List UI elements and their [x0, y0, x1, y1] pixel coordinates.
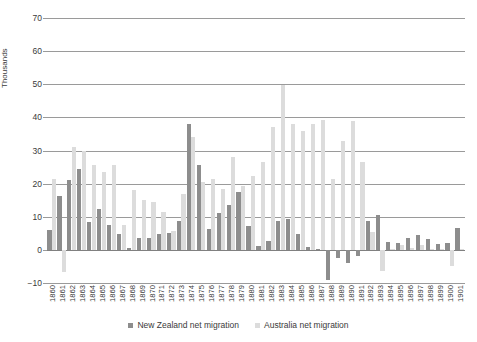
bar [336, 250, 340, 258]
bar-group [147, 18, 157, 283]
bar-group [266, 18, 276, 283]
x-tick-label: 1881 [257, 285, 266, 321]
x-tick-label: 1899 [436, 285, 445, 321]
bar-group [156, 18, 166, 283]
bar [410, 248, 414, 250]
x-tick-label: 1860 [48, 285, 57, 321]
bar [356, 250, 360, 256]
x-tick-label: 1888 [327, 285, 336, 321]
bar [92, 165, 96, 249]
y-tick-label: 20 [33, 179, 42, 189]
bar [47, 230, 51, 250]
bar [386, 242, 390, 250]
bar [57, 196, 61, 250]
x-tick-label: 1897 [416, 285, 425, 321]
x-tick-label: 1863 [78, 285, 87, 321]
bar-group [97, 18, 107, 283]
bar-group [306, 18, 316, 283]
bar [346, 250, 350, 263]
bar-group [405, 18, 415, 283]
bar-group [356, 18, 366, 283]
legend-item[interactable]: Australia net migration [255, 320, 349, 330]
x-tick-label: 1882 [267, 285, 276, 321]
bar [440, 249, 444, 250]
bar-group [236, 18, 246, 283]
bar-group [256, 18, 266, 283]
bar [416, 235, 420, 250]
bar [321, 120, 325, 250]
bar [107, 225, 111, 250]
bar-group [435, 18, 445, 283]
x-tick-label: 1876 [207, 285, 216, 321]
bar [117, 234, 121, 250]
y-tick-label: 30 [33, 146, 42, 156]
bar [167, 233, 171, 250]
bar [331, 179, 335, 250]
bar [396, 243, 400, 250]
bar [376, 215, 380, 250]
bar-group [326, 18, 336, 283]
bar-group [107, 18, 117, 283]
x-tick-label: 1861 [58, 285, 67, 321]
bar [87, 222, 91, 249]
bar [455, 228, 459, 250]
bar [82, 151, 86, 250]
bar [351, 121, 355, 250]
bar [122, 225, 126, 250]
bar-group [127, 18, 137, 283]
bar-group [455, 18, 465, 283]
bar-group [87, 18, 97, 283]
bar [191, 137, 195, 250]
y-tick-label: 0 [37, 245, 42, 255]
bar-group [425, 18, 435, 283]
bar [276, 221, 280, 250]
bar-group [166, 18, 176, 283]
bar [97, 209, 101, 249]
y-tick-label: 40 [33, 112, 42, 122]
bar [360, 162, 364, 250]
x-tick-label: 1890 [347, 285, 356, 321]
bar [266, 241, 270, 250]
bar [231, 157, 235, 250]
bar [211, 179, 215, 250]
bar-group [137, 18, 147, 283]
chart-legend: New Zealand net migrationAustralia net m… [0, 320, 477, 330]
bar-group [206, 18, 216, 283]
x-tick-label: 1886 [307, 285, 316, 321]
x-axis-line [47, 283, 465, 284]
legend-item[interactable]: New Zealand net migration [128, 320, 239, 330]
bar [157, 234, 161, 250]
x-tick-label: 1893 [376, 285, 385, 321]
bar [450, 250, 454, 266]
bar [236, 192, 240, 250]
bar [67, 180, 71, 250]
x-tick-label: 1878 [227, 285, 236, 321]
x-tick-label: 1872 [167, 285, 176, 321]
x-tick-label: 1889 [337, 285, 346, 321]
bar [72, 147, 76, 250]
bar [445, 243, 449, 250]
bar [187, 124, 191, 250]
bar [142, 200, 146, 250]
bar-group [365, 18, 375, 283]
x-tick-label: 1894 [386, 285, 395, 321]
x-tick-label: 1869 [138, 285, 147, 321]
x-tick-label: 1864 [88, 285, 97, 321]
bar [227, 205, 231, 249]
bar-group [336, 18, 346, 283]
bar-group [316, 18, 326, 283]
bar [112, 165, 116, 249]
y-axis-title: Thousands [0, 18, 14, 88]
x-tick-label: 1879 [237, 285, 246, 321]
bar [301, 131, 305, 250]
bar [400, 245, 404, 250]
x-axis-labels: 1860186118621863186418651866186718681869… [47, 285, 465, 325]
bar-group [246, 18, 256, 283]
bar-group [226, 18, 236, 283]
bar [207, 229, 211, 250]
y-tick-label: 50 [33, 79, 42, 89]
bar-group [117, 18, 127, 283]
x-tick-label: 1874 [187, 285, 196, 321]
bar [201, 182, 205, 250]
bar-group [385, 18, 395, 283]
